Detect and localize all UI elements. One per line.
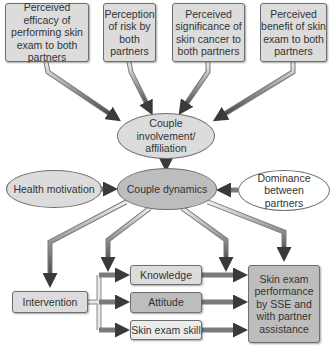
node-dominance: Dominance between partners [238,170,330,211]
arrow-mediators-to-outcome [202,275,242,330]
arrow-dynamics-to-intervention [50,202,126,282]
node-label: Perceived benefit of skin exam to both p… [261,8,326,58]
node-label: Intervention [23,296,78,309]
node-label: Couple dynamics [127,183,208,196]
node-couple-involvement: Couple involvement/ affiliation [117,113,215,159]
node-label: Skin exam performance by SSE and with pa… [249,273,320,336]
node-label: Perceived efficacy of performing skin ex… [6,1,88,64]
arrow-benefit-to-involvement [218,62,293,118]
arrow-dynamics-to-knowledge-output [182,208,226,266]
node-attitude: Attitude [130,292,202,313]
node-skin-exam-performance: Skin exam performance by SSE and with pa… [248,265,320,343]
node-label: Skin exam skill [131,324,200,337]
arrow-significance-to-involvement [182,62,208,110]
node-perceived-efficacy: Perceived efficacy of performing skin ex… [5,3,89,62]
node-perceived-benefit: Perceived benefit of skin exam to both p… [260,3,327,62]
node-health-motivation: Health motivation [6,170,102,208]
node-label: Health motivation [13,183,94,196]
node-knowledge: Knowledge [130,265,202,285]
node-label: Knowledge [140,269,192,282]
node-label: Attitude [148,296,184,309]
arrow-efficacy-to-involvement [46,62,116,118]
node-intervention: Intervention [12,291,88,313]
node-skin-exam-skill: Skin exam skill [130,320,202,340]
arrow-dynamics-to-knowledge-branch [108,208,150,266]
arrow-intervention-branches [88,275,124,330]
node-label: Perception of risk by both partners [104,8,155,58]
node-couple-dynamics: Couple dynamics [117,168,217,210]
node-label: Perceived significance of skin cancer to… [173,8,244,58]
node-label: Dominance between partners [239,172,329,210]
arrow-risk-to-involvement [129,62,150,110]
node-perceived-significance: Perceived significance of skin cancer to… [172,3,245,62]
node-label: Couple involvement/ affiliation [118,117,214,155]
node-perception-of-risk: Perception of risk by both partners [103,3,156,62]
